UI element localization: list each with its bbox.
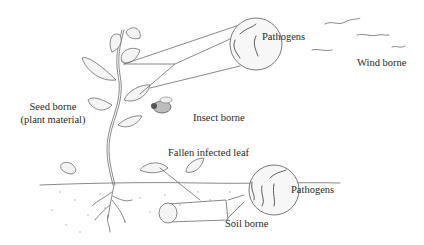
plant-icon	[61, 28, 204, 232]
magnified-pathogens-icon	[230, 18, 282, 70]
insect-borne-label: Insect borne	[193, 112, 245, 124]
seed-borne-sublabel: (plant material)	[13, 114, 93, 126]
pathogen-transmission-diagram: Pathogens Wind borne Seed borne (plant m…	[0, 0, 424, 245]
wind-lines-icon	[312, 18, 405, 51]
wind-borne-label: Wind borne	[357, 57, 406, 69]
soil-sample-icon	[159, 200, 228, 223]
fly-icon	[151, 97, 172, 113]
soil-borne-label: Soil borne	[225, 218, 268, 230]
fallen-leaf-label: Fallen infected leaf	[168, 147, 249, 159]
pathogens-top-label: Pathogens	[262, 31, 305, 43]
pathogens-bottom-label: Pathogens	[291, 184, 334, 196]
seed-borne-label: Seed borne	[13, 101, 93, 113]
